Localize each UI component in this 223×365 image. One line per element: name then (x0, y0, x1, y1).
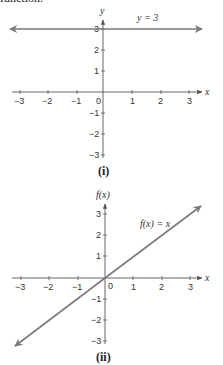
svg-text:−1: −1 (89, 108, 99, 118)
svg-text:1: 1 (94, 66, 99, 76)
y-axis-label: y (99, 5, 105, 16)
svg-text:3: 3 (187, 96, 192, 106)
svg-text:1: 1 (96, 251, 101, 261)
svg-text:1: 1 (131, 282, 136, 292)
x-tick-labels: −3 −2 −1 0 1 2 3 (15, 281, 193, 292)
svg-text:3: 3 (188, 282, 193, 292)
svg-text:−3: −3 (89, 150, 99, 160)
svg-text:−1: −1 (91, 294, 101, 304)
function-label-i: y = 3 (136, 12, 158, 23)
y-tick-labels: 3 2 1 −1 −2 −3 (91, 209, 101, 346)
function-line-f-equals-x (105, 206, 201, 278)
svg-text:−3: −3 (91, 336, 101, 346)
panel-label-i: (i) (98, 164, 109, 178)
svg-text:0: 0 (96, 96, 101, 106)
svg-text:2: 2 (158, 96, 163, 106)
graphs-figure: x y −3 −2 −1 0 1 2 3 (0, 0, 223, 365)
svg-text:−2: −2 (91, 315, 101, 325)
svg-text:1: 1 (130, 96, 135, 106)
svg-text:−3: −3 (14, 96, 24, 106)
svg-text:2: 2 (94, 45, 99, 55)
y-axis-label: f(x) (96, 189, 111, 201)
graph-panel-ii: x f(x) −3 −2 −1 0 1 2 3 (12, 189, 210, 364)
svg-text:−2: −2 (89, 129, 99, 139)
function-label-ii: f(x) = x (140, 218, 171, 230)
x-axis-label: x (204, 272, 210, 283)
svg-text:2: 2 (96, 230, 101, 240)
svg-text:3: 3 (96, 209, 101, 219)
svg-text:0: 0 (108, 281, 113, 291)
svg-text:−1: −1 (71, 96, 81, 106)
x-axis-label: x (204, 86, 210, 97)
svg-text:2: 2 (159, 282, 164, 292)
graph-panel-i: x y −3 −2 −1 0 1 2 3 (10, 5, 210, 178)
svg-text:−2: −2 (43, 282, 53, 292)
panel-label-ii: (ii) (96, 350, 111, 364)
svg-text:−1: −1 (72, 282, 82, 292)
svg-text:−3: −3 (15, 282, 25, 292)
svg-text:−2: −2 (42, 96, 52, 106)
